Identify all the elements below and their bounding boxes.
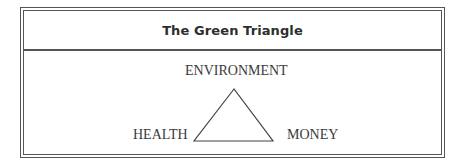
- label-health: HEALTH: [133, 128, 188, 142]
- triangle-shape: [194, 89, 273, 141]
- triangle-diagram: [0, 0, 467, 165]
- label-money: MONEY: [287, 128, 338, 142]
- label-environment: ENVIRONMENT: [185, 64, 288, 78]
